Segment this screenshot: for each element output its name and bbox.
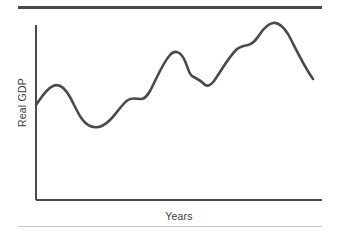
x-axis-label: Years	[36, 209, 322, 223]
bottom-divider-rule	[18, 226, 322, 227]
plot-area	[0, 0, 339, 236]
chart-figure: Real GDP Years	[0, 0, 339, 236]
y-axis-label: Real GDP	[15, 83, 29, 127]
real-gdp-curve	[36, 23, 313, 128]
